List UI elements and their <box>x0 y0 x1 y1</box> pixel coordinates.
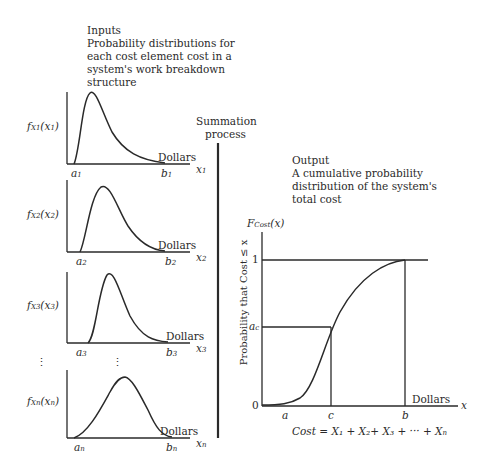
inputs-desc-line-4: structure <box>87 76 137 89</box>
b-tick-n: bn <box>166 441 177 456</box>
cost-formula: Cost = X₁ + X₂+ X₃ + ··· + Xn <box>292 425 447 440</box>
units-label-1: Dollars <box>158 151 196 164</box>
output-desc-line-3: total cost <box>292 193 342 206</box>
x-var-n: xn <box>196 437 206 452</box>
inputs-desc-line-1: Probability distributions for <box>87 37 235 50</box>
ellipsis-left: ⋮ <box>36 356 47 369</box>
pdf-label-3: fX3(x3) <box>27 299 59 314</box>
pdf-label-n: fXn(xn) <box>27 395 59 410</box>
a-tick-n: an <box>74 441 85 456</box>
x-var-2: x2 <box>196 251 206 266</box>
units-label-n: Dollars <box>160 425 198 438</box>
inputs-desc-line-2: each cost element cost in a <box>87 50 232 63</box>
a-tick-2: a2 <box>76 255 87 270</box>
output-desc-line-2: distribution of the system's <box>292 180 437 193</box>
x-var-1: x1 <box>196 163 206 178</box>
inputs-desc-line-3: system's work breakdown <box>87 63 225 76</box>
output-title: Output <box>292 154 329 167</box>
b-tick-3: b3 <box>166 346 177 361</box>
cdf-chart <box>262 232 458 406</box>
x-tick-a: a <box>282 409 288 422</box>
units-label-2: Dollars <box>158 239 196 252</box>
a-tick-3: a3 <box>76 346 87 361</box>
summation-line-1: Summation <box>196 115 257 128</box>
summation-line-2: process <box>205 128 246 141</box>
pdf-label-1: fX1(x1) <box>27 120 59 135</box>
b-tick-2: b2 <box>165 255 176 270</box>
diagram-graphics <box>0 0 477 471</box>
inputs-title: Inputs <box>87 24 121 37</box>
x-var-3: x3 <box>196 342 206 357</box>
output-desc-line-1: A cumulative probability <box>292 167 423 180</box>
y-tick-zero: 0 <box>252 399 259 412</box>
x-tick-c: c <box>328 409 334 422</box>
b-tick-1: b1 <box>161 167 172 182</box>
cdf-units-label: Dollars <box>412 393 450 406</box>
y-tick-ac: ac <box>249 320 259 335</box>
a-tick-1: a1 <box>71 167 82 182</box>
y-tick-one: 1 <box>252 253 259 266</box>
pdf-label-2: fX2(x2) <box>27 208 59 223</box>
cdf-x-var: x <box>461 399 467 412</box>
cdf-y-axis-label: Probability that Cost ≤ x <box>237 238 250 368</box>
x-tick-b: b <box>402 409 409 422</box>
ellipsis-center: ⋮ <box>112 356 123 369</box>
cdf-y-title: FCost(x) <box>247 217 284 232</box>
